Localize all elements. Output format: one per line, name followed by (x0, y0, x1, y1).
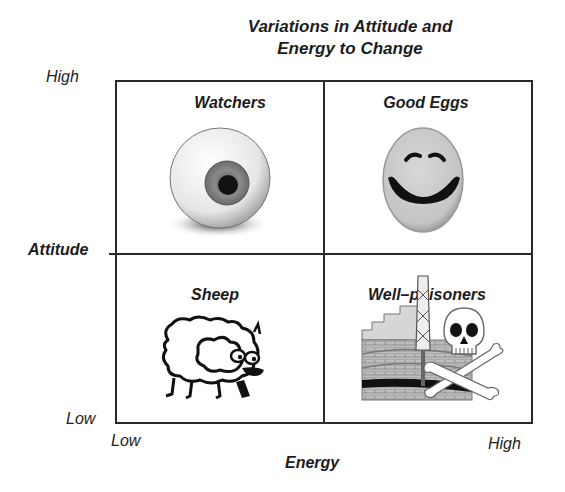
y-axis-high-label: High (46, 68, 79, 86)
x-axis-low-label: Low (111, 432, 140, 450)
oil-well-skull-icon (360, 270, 510, 410)
vertical-divider (323, 82, 325, 422)
quadrant-label-watchers: Watchers (170, 94, 290, 112)
quadrant-label-sheep: Sheep (160, 286, 270, 304)
y-axis-low-label: Low (66, 410, 95, 428)
smiley-egg-icon (378, 124, 468, 236)
title-line-1: Variations in Attitude and (190, 16, 510, 38)
quadrant-label-good-eggs: Good Eggs (366, 94, 486, 112)
x-axis-title: Energy (285, 454, 339, 472)
x-axis-high-label: High (488, 435, 521, 453)
sheep-icon (158, 312, 270, 404)
attitude-tick (109, 253, 117, 255)
y-axis-title: Attitude (28, 241, 88, 259)
diagram-title: Variations in Attitude and Energy to Cha… (190, 16, 510, 60)
horizontal-divider (117, 253, 531, 255)
title-line-2: Energy to Change (190, 38, 510, 60)
eyeball-icon (160, 120, 280, 242)
